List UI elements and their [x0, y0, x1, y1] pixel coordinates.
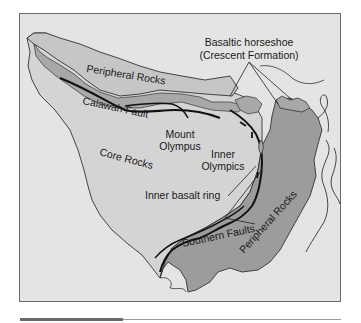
east-coastline-3: [331, 148, 340, 204]
inner-basalt-ring-lens: [259, 140, 264, 154]
olympic-peninsula-map: Basaltic horseshoe (Crescent Formation) …: [0, 0, 361, 323]
bottom-rule-accent: [20, 318, 123, 321]
label-inner-olympics-1: Inner: [211, 148, 235, 160]
east-coastline-4: [260, 66, 324, 84]
label-basaltic-horseshoe-1: Basaltic horseshoe: [205, 36, 294, 48]
label-basaltic-horseshoe-2: (Crescent Formation): [199, 49, 298, 61]
label-mount-olympus-2: Olympus: [159, 140, 200, 152]
label-inner-olympics-2: Olympics: [201, 160, 244, 172]
label-mount-olympus-1: Mount: [165, 128, 194, 140]
south-coast-detail: [160, 278, 186, 292]
label-inner-basalt-ring: Inner basalt ring: [145, 189, 220, 201]
